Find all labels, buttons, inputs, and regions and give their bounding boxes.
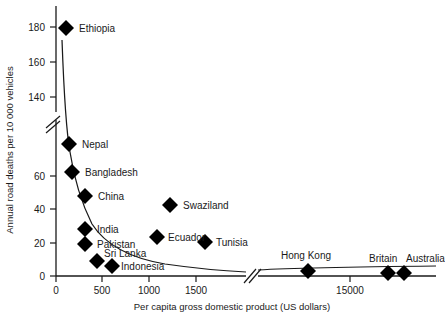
y-tick-label-160: 160	[28, 57, 45, 68]
y-tick-label-40: 40	[34, 204, 46, 215]
data-label-ethiopia: Ethiopia	[79, 23, 116, 34]
data-label-ecuador: Ecuador	[168, 232, 206, 243]
y-tick-label-0: 0	[39, 271, 45, 282]
data-point-china[interactable]	[77, 188, 93, 204]
y-tick-label-180: 180	[28, 22, 45, 33]
data-point-ethiopia[interactable]	[58, 20, 74, 36]
data-label-swaziland: Swaziland	[183, 200, 229, 211]
data-point-britain[interactable]	[380, 265, 396, 281]
scatter-plot-svg: 0 20 40 60 140 160 180 Annual road death…	[0, 0, 445, 323]
data-label-britain: Britain	[369, 253, 397, 264]
data-label-indonesia: Indonesia	[121, 261, 165, 272]
data-point-australia[interactable]	[396, 265, 412, 281]
data-point-sri-lanka[interactable]	[89, 253, 105, 269]
data-point-swaziland[interactable]	[162, 197, 178, 213]
trend-curve-right	[258, 266, 436, 270]
y-axis-ticks-upper	[50, 27, 56, 97]
x-tick-label-15000: 15000	[336, 285, 364, 296]
data-label-india: India	[97, 224, 119, 235]
chart-container: 0 20 40 60 140 160 180 Annual road death…	[0, 0, 445, 323]
y-tick-label-140: 140	[28, 92, 45, 103]
y-axis-break-icon	[46, 116, 60, 133]
y-axis-title: Annual road deaths per 10 000 vehicles	[4, 66, 15, 234]
data-label-china: China	[98, 191, 125, 202]
data-label-bangladesh: Bangladesh	[85, 167, 138, 178]
data-point-labels: Ethiopia Nepal Bangladesh China India Pa…	[79, 23, 445, 272]
y-axis-ticks-lower	[50, 176, 56, 276]
x-tick-label-500: 500	[94, 285, 111, 296]
x-tick-label-1500: 1500	[185, 285, 208, 296]
x-tick-label-0: 0	[53, 285, 59, 296]
x-axis-title: Per capita gross domestic product (US do…	[134, 301, 330, 312]
data-label-australia: Australia	[406, 253, 445, 264]
data-point-indonesia[interactable]	[104, 258, 120, 274]
y-tick-label-60: 60	[34, 171, 46, 182]
x-tick-label-1000: 1000	[138, 285, 161, 296]
data-point-ecuador[interactable]	[149, 229, 165, 245]
data-point-bangladesh[interactable]	[64, 164, 80, 180]
y-tick-label-20: 20	[34, 238, 46, 249]
data-point-pakistan[interactable]	[77, 236, 93, 252]
data-point-india[interactable]	[77, 221, 93, 237]
data-label-hong-kong: Hong Kong	[281, 250, 331, 261]
data-label-tunisia: Tunisia	[216, 237, 248, 248]
data-point-nepal[interactable]	[61, 136, 77, 152]
data-label-sri-lanka: Sri Lanka	[104, 248, 147, 259]
data-label-nepal: Nepal	[82, 139, 108, 150]
